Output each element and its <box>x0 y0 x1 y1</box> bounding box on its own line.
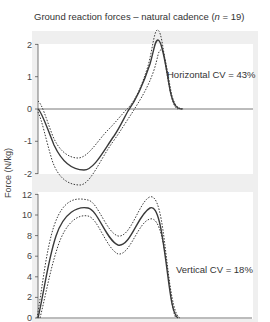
h-tick-label: -2 <box>24 169 32 179</box>
horizontal-cv-annotation: Horizontal CV = 43% <box>167 69 256 80</box>
vertical-cv-annotation: Vertical CV = 18% <box>176 264 253 275</box>
v-tick-label: 0 <box>27 313 32 322</box>
v-tick-label: 8 <box>27 231 32 241</box>
v-tick-label: 2 <box>27 292 32 302</box>
v-tick-label: 12 <box>22 190 32 200</box>
v-tick-label: 10 <box>22 210 32 220</box>
v-tick-label: 6 <box>27 251 32 261</box>
h-tick-label: 0 <box>27 104 32 114</box>
figure: 2 1 0 -1 -2 Horizontal CV = 43% 12 10 8 <box>0 0 270 322</box>
h-tick-label: -1 <box>24 136 32 146</box>
h-tick-label: 2 <box>27 40 32 50</box>
h-tick-label: 1 <box>27 72 32 82</box>
v-tick-label: 4 <box>27 272 32 282</box>
